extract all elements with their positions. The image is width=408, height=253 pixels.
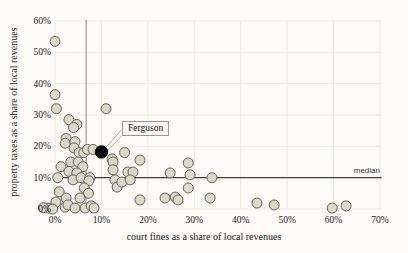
data-point bbox=[135, 195, 145, 205]
x-tick-label: 30% bbox=[186, 215, 203, 226]
data-point bbox=[160, 193, 170, 203]
x-tick-label: 60% bbox=[325, 215, 342, 226]
y-tick-label: 10% bbox=[17, 172, 51, 183]
data-point bbox=[327, 203, 337, 213]
x-tick-label: 10% bbox=[93, 215, 110, 226]
data-point bbox=[183, 183, 193, 193]
x-tick-label: 70% bbox=[371, 215, 388, 226]
data-point bbox=[252, 198, 262, 208]
y-tick-label: 20% bbox=[17, 141, 51, 152]
y-axis-title: property taxes as a share of local reven… bbox=[8, 27, 19, 196]
data-point bbox=[101, 104, 111, 114]
ferguson-callout-label: Ferguson bbox=[122, 121, 169, 136]
x-tick-label: 20% bbox=[139, 215, 156, 226]
x-tick-label: 50% bbox=[278, 215, 295, 226]
data-point bbox=[341, 201, 351, 211]
data-point bbox=[205, 193, 215, 203]
data-point bbox=[69, 123, 79, 133]
data-point bbox=[120, 148, 130, 158]
y-tick-label: 60% bbox=[17, 16, 51, 27]
x-axis-title: court fines as a share of local revenues bbox=[0, 231, 408, 242]
data-point bbox=[165, 168, 175, 178]
data-point bbox=[173, 195, 183, 205]
ferguson-data-point bbox=[95, 146, 107, 158]
data-point bbox=[53, 173, 63, 183]
y-tick-label: 30% bbox=[17, 110, 51, 121]
data-point bbox=[269, 200, 279, 210]
data-point bbox=[125, 175, 135, 185]
y-tick-label: 40% bbox=[17, 78, 51, 89]
data-point bbox=[89, 203, 99, 213]
data-point bbox=[183, 158, 193, 168]
data-point bbox=[108, 165, 118, 175]
data-point bbox=[135, 155, 145, 165]
data-point bbox=[51, 104, 61, 114]
data-point bbox=[207, 173, 217, 183]
scatter-chart: 0%10%20%30%40%50%60% 0%10%20%30%40%50%60… bbox=[0, 0, 408, 253]
data-point bbox=[185, 170, 195, 180]
x-tick-label: 0% bbox=[49, 215, 62, 226]
data-point bbox=[70, 203, 80, 213]
y-tick-label: 50% bbox=[17, 47, 51, 58]
data-point bbox=[50, 36, 60, 46]
x-tick-label: 40% bbox=[232, 215, 249, 226]
data-point bbox=[50, 90, 60, 100]
median-line-label: median bbox=[354, 166, 380, 175]
y-tick-label: 0% bbox=[17, 204, 51, 215]
data-point bbox=[75, 193, 85, 203]
